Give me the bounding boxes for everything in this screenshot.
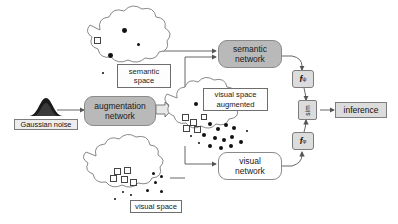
visual-network-box[interactable]: visual network [218,152,282,180]
visual-space-augmented-label: visual space augmented [203,88,268,111]
cloud-point [137,43,140,46]
inference-box[interactable]: inference [335,102,387,118]
cloud-square [121,176,128,183]
cloud-point [160,175,163,178]
cloud-point [130,194,132,196]
inference-label: inference [344,105,379,115]
gaussian-noise-label: Gaussian noise [14,119,78,130]
diagram-canvas: Gaussian noise augmentation network sema… [0,0,398,224]
cloud-square [190,119,197,126]
cloud-point [108,53,113,58]
cloud-square [124,167,131,174]
cloud-point [219,146,223,150]
cloud-point [202,133,206,137]
semantic-network-line1: semantic [233,44,267,54]
cloud-point [122,28,127,33]
cloud-square [94,37,101,44]
cloud-point [114,198,116,200]
cloud-point [232,126,236,130]
augmentation-network-line1: augmentation [94,101,146,111]
cloud-point [246,130,248,132]
cloud-square [110,175,117,182]
f-phi-box[interactable]: fφ [292,132,314,150]
cloud-point [208,122,212,126]
cloud-point [229,144,233,148]
cloud-square [182,114,189,121]
augmentation-network-box[interactable]: augmentation network [84,96,156,126]
cloud-square [130,179,137,186]
semantic-network-line2: network [233,54,267,64]
cloud-point [208,144,212,148]
cloud-square [194,126,201,133]
semantic-space-label: semantic space [117,64,171,88]
gaussian-noise-icon [28,96,64,118]
cloud-point [198,142,200,144]
similarity-label: sim [304,105,311,116]
semantic-space-line2: space [134,76,154,85]
cloud-point [222,138,226,142]
similarity-box[interactable]: sim [298,100,317,120]
cloud-point [152,172,155,175]
cloud-point [160,190,163,193]
visual-space-augmented-line2: augmented [217,100,255,109]
cloud-point [102,72,104,74]
wire-fpsi-to-sim [304,88,306,100]
cloud-point [224,123,228,127]
visual-space-augmented-line1: visual space [215,90,257,99]
cloud-point [194,102,198,106]
visual-network-line2: network [235,166,265,176]
semantic-network-box[interactable]: semantic network [218,40,282,68]
cloud-square [201,114,207,120]
cloud-point [239,140,243,144]
cloud-square [183,125,190,132]
cloud-point [213,136,217,140]
cloud-square [114,168,121,175]
cloud-point [154,181,157,184]
wire-semanticnetwork-to-fpsi [282,56,302,70]
semantic-space-line1: semantic [129,67,159,76]
f-psi-box[interactable]: fψ [292,70,314,88]
cloud-point [190,135,192,137]
f-psi-sub: ψ [302,76,306,82]
cloud-point [146,189,149,192]
augmentation-network-line2: network [94,111,146,121]
wire-visualnetwork-to-fphi [282,152,302,166]
wire-fphi-to-sim [304,120,306,132]
cloud-point [122,191,124,193]
cloud-point [230,135,234,139]
cloud-point [216,127,220,131]
visual-network-line1: visual [235,156,265,166]
f-phi-sub: φ [302,138,306,144]
visual-space-label: visual space [130,200,182,213]
